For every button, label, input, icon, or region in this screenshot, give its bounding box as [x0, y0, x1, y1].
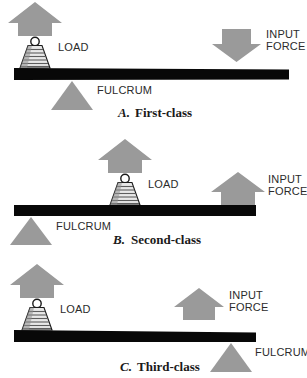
load-label: LOAD [60, 303, 91, 315]
input-force-label-line1: INPUT [266, 28, 300, 40]
input-force-label-line2: FORCE [266, 40, 306, 52]
lever-classes-diagram: LOAD INPUT FORCE FULCRUM A. First-class [0, 0, 307, 378]
caption-text: Third-class [137, 359, 200, 374]
fulcrum-triangle-icon [10, 217, 52, 245]
input-force-label-line1: INPUT [229, 289, 263, 301]
fulcrum-label: FULCRUM [255, 346, 307, 358]
input-force-arrow-down-icon [212, 29, 261, 62]
caption-letter: C. [120, 359, 132, 374]
load-weight-icon [22, 299, 52, 330]
panel-second-class: LOAD INPUT FORCE FULCRUM B. Second-class [0, 125, 307, 250]
fulcrum-label: FULCRUM [97, 84, 152, 96]
load-weight-icon [20, 37, 50, 68]
load-arrow-up-icon [98, 139, 152, 173]
lever-bar [14, 68, 289, 80]
input-force-label-line2: FORCE [229, 301, 269, 313]
load-weight-icon [110, 174, 140, 205]
load-label: LOAD [58, 41, 89, 53]
lever-bar [14, 205, 256, 216]
panel-third-class: LOAD INPUT FORCE FULCRUM C. Third-class [0, 250, 307, 378]
panel-first-class: LOAD INPUT FORCE FULCRUM A. First-class [0, 0, 307, 125]
caption-text: First-class [135, 105, 192, 120]
caption-letter: A. [117, 105, 130, 120]
fulcrum-triangle-icon [210, 343, 252, 372]
input-force-arrow-up-icon [211, 172, 265, 205]
lever-bar [14, 330, 256, 342]
load-arrow-up-icon [8, 2, 62, 36]
fulcrum-triangle-icon [51, 81, 93, 110]
caption-text: Second-class [131, 232, 201, 247]
load-label: LOAD [148, 178, 179, 190]
caption-letter: B. [112, 232, 125, 247]
input-force-label-line1: INPUT [268, 173, 302, 185]
input-force-label-line2: FORCE [268, 185, 307, 197]
load-arrow-up-icon [10, 264, 64, 298]
fulcrum-label: FULCRUM [56, 220, 111, 232]
input-force-arrow-up-icon [174, 288, 224, 320]
